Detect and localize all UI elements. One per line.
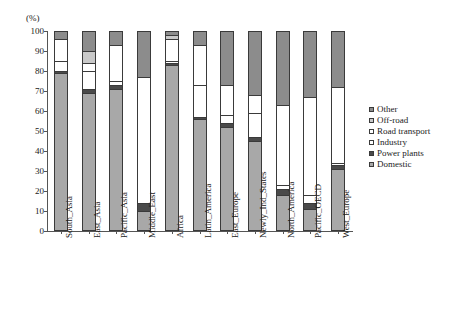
y-axis-tick-label: 10 [35, 207, 44, 216]
bar-africa [165, 31, 179, 231]
legend-item-off-road: Off-road [369, 115, 451, 125]
bar-segment-road-transport [248, 95, 262, 113]
bar-segment-power-plants [193, 117, 207, 119]
x-axis-label-north-america: North_America [287, 182, 296, 238]
stacked-bar-chart: (%) 0102030405060708090100 OtherOff-road… [0, 0, 453, 331]
bar-segment-industry [220, 115, 234, 123]
bar-segment-other [109, 31, 123, 45]
bar-segment-road-transport [54, 39, 68, 61]
chart-legend: OtherOff-roadRoad transportIndustryPower… [369, 104, 451, 170]
y-axis-tick-30: 30 [0, 167, 44, 176]
x-axis-tick-mark [61, 231, 62, 234]
bar-segment-industry [193, 85, 207, 117]
legend-swatch-icon [369, 140, 374, 145]
y-axis-tick-80: 80 [0, 67, 44, 76]
x-axis-label-east-asia: East_Asia [93, 202, 102, 239]
y-axis-tick-100: 100 [0, 27, 44, 36]
legend-label: Power plants [377, 149, 424, 158]
bar-segment-power-plants [165, 63, 179, 65]
y-axis-tick-0: 0 [0, 227, 44, 236]
bar-segment-other [165, 31, 179, 35]
bar-segment-other [248, 31, 262, 95]
bar-segment-power-plants [248, 137, 262, 141]
legend-label: Other [377, 105, 398, 114]
legend-swatch-icon [369, 151, 374, 156]
y-axis-tick-50: 50 [0, 127, 44, 136]
bar-segment-industry [109, 81, 123, 85]
bar-segment-road-transport [220, 85, 234, 115]
x-axis-tick-mark [310, 231, 311, 234]
bar-segment-power-plants [220, 123, 234, 127]
bar-segment-power-plants [54, 71, 68, 73]
bar-segment-road-transport [303, 97, 317, 195]
x-axis-label-newly-ind-states: Newly_Ind_States [259, 172, 268, 239]
bar-segment-other [137, 31, 151, 77]
legend-item-other: Other [369, 104, 451, 114]
legend-swatch-icon [369, 118, 374, 123]
bar-segment-road-transport [276, 105, 290, 185]
y-axis-tick-20: 20 [0, 187, 44, 196]
legend-swatch-icon [369, 107, 374, 112]
y-axis-tick-label: 100 [31, 27, 45, 36]
bar-segment-road-transport [82, 63, 96, 71]
bar-segment-road-transport [193, 45, 207, 85]
x-axis-tick-mark [200, 231, 201, 234]
y-axis-tick-10: 10 [0, 207, 44, 216]
bar-segment-power-plants [82, 89, 96, 93]
bar-segment-other [303, 31, 317, 97]
bar-segment-industry [82, 71, 96, 89]
bar-segment-road-transport [331, 87, 345, 163]
y-axis-tick-90: 90 [0, 47, 44, 56]
y-axis-tick-label: 30 [35, 167, 44, 176]
x-axis-tick-mark [255, 231, 256, 234]
x-axis-label-africa: Africa [176, 215, 185, 238]
bar-segment-off-road [82, 51, 96, 63]
y-axis-tick-label: 90 [35, 47, 44, 56]
x-axis-tick-mark [227, 231, 228, 234]
y-axis-tick-label: 20 [35, 187, 44, 196]
y-axis-tick-40: 40 [0, 147, 44, 156]
bar-segment-industry [137, 77, 151, 203]
bar-segment-road-transport [109, 45, 123, 81]
legend-item-road-transport: Road transport [369, 126, 451, 136]
legend-label: Off-road [377, 116, 408, 125]
legend-label: Domestic [377, 160, 412, 169]
x-axis-label-east-europe: East_Europe [231, 192, 240, 238]
bar-segment-power-plants [331, 165, 345, 169]
bar-segment-industry [331, 163, 345, 165]
x-axis-tick-mark [116, 231, 117, 234]
legend-item-power-plants: Power plants [369, 148, 451, 158]
x-axis-tick-mark [338, 231, 339, 234]
x-axis-label-south-asia: South_Asia [65, 196, 74, 238]
bar-segment-other [220, 31, 234, 85]
bar-segment-industry [248, 113, 262, 137]
x-axis-tick-mark [144, 231, 145, 234]
bar-segment-other [82, 31, 96, 51]
legend-item-industry: Industry [369, 137, 451, 147]
bar-segment-industry [165, 61, 179, 63]
x-axis-label-pacific-oecd: Pacific_OECD [314, 184, 323, 238]
legend-label: Industry [377, 138, 407, 147]
x-axis-label-west-europe: West_Europe [342, 190, 351, 238]
legend-swatch-icon [369, 162, 374, 167]
bar-segment-power-plants [109, 85, 123, 89]
y-axis-tick-70: 70 [0, 87, 44, 96]
bar-segment-other [331, 31, 345, 87]
bar-segment-off-road [165, 35, 179, 39]
x-axis-label-pacific-asia: Pacific_Asia [120, 192, 129, 238]
x-axis-tick-mark [172, 231, 173, 234]
bar-segment-domestic [165, 65, 179, 231]
bar-segment-other [276, 31, 290, 105]
x-axis-tick-mark [89, 231, 90, 234]
bar-segment-road-transport [165, 39, 179, 61]
x-axis-tick-mark [283, 231, 284, 234]
bar-segment-other [54, 31, 68, 39]
bar-segment-other [193, 31, 207, 45]
y-axis-unit-label: (%) [26, 13, 40, 23]
x-axis-label-latin-america: Latin_America [204, 184, 213, 238]
y-axis-tick-label: 60 [35, 107, 44, 116]
y-axis-tick-mark [44, 231, 47, 232]
bar-segment-industry [54, 61, 68, 71]
legend-item-domestic: Domestic [369, 159, 451, 169]
legend-swatch-icon [369, 129, 374, 134]
